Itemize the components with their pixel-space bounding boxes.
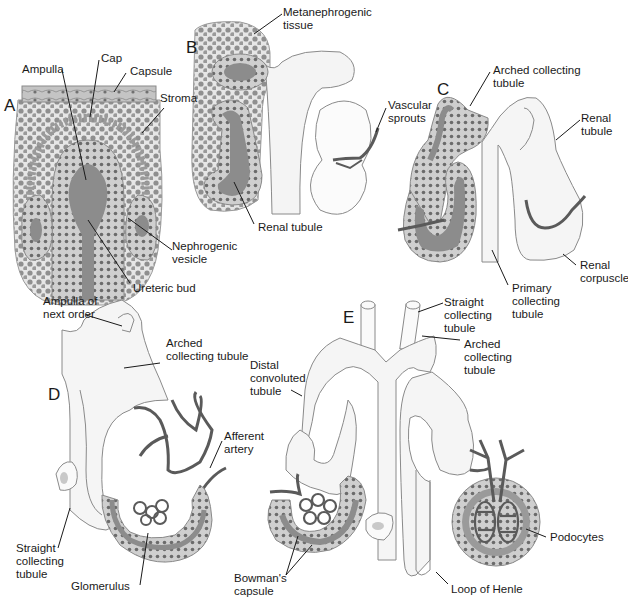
label-afferent-artery: Afferent artery <box>224 430 264 456</box>
label-ampulla: Ampulla <box>22 63 64 76</box>
panel-letter-e: E <box>343 308 354 328</box>
label-ampulla-next-order: Ampulla of next order <box>43 295 97 321</box>
panel-a-drawing <box>13 60 172 305</box>
label-distal-convoluted-tubule: Distal convoluted tubule <box>250 359 306 398</box>
panel-letter-c: C <box>437 80 449 100</box>
label-arched-collecting-tubule-d: Arched collecting tubule <box>166 337 248 363</box>
label-glomerulus: Glomerulus <box>71 580 130 593</box>
label-cap: Cap <box>101 52 122 65</box>
panel-b-drawing <box>192 14 386 224</box>
label-metanephrogenic-tissue: Metanephrogenic tissue <box>283 6 372 32</box>
label-vascular-sprouts: Vascular sprouts <box>388 99 432 125</box>
label-stroma: Stroma <box>160 92 197 105</box>
label-straight-collecting-tubule-d: Straight collecting tubule <box>16 542 64 581</box>
label-arched-collecting-tubule-c: Arched collecting tubule <box>493 64 581 90</box>
kidney-development-figure: A B C D E Ampulla Cap Capsule Stroma Nep… <box>0 0 628 603</box>
panel-letter-d: D <box>48 385 60 405</box>
label-loop-of-henle: Loop of Henle <box>451 583 523 596</box>
label-renal-tubule-b: Renal tubule <box>258 221 323 234</box>
label-nephrogenic-vesicle: Nephrogenic vesicle <box>172 240 237 266</box>
panel-letter-b: B <box>186 38 197 58</box>
label-renal-corpuscle: Renal corpuscle <box>580 259 628 285</box>
label-renal-tubule-c: Renal tubule <box>581 112 612 138</box>
label-bowmans-capsule: Bowman's capsule <box>234 572 287 598</box>
label-capsule: Capsule <box>130 65 172 78</box>
panel-letter-a: A <box>4 96 15 116</box>
label-arched-collecting-tubule-e: Arched collecting tubule <box>464 338 512 377</box>
label-straight-collecting-tubule-e: Straight collecting tubule <box>444 296 492 335</box>
label-primary-collecting-tubule: Primary collecting tubule <box>512 282 560 321</box>
label-ureteric-bud: Ureteric bud <box>133 282 196 295</box>
label-podocytes: Podocytes <box>550 531 604 544</box>
